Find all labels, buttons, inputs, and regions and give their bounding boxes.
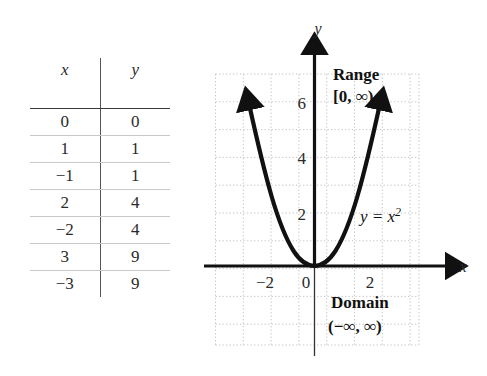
cell-y: 4: [100, 217, 170, 244]
header-rule-right: [100, 82, 170, 109]
table-row: −1 1: [30, 163, 170, 190]
axes: [204, 52, 448, 356]
axis-names: x y: [312, 20, 466, 275]
y-tick-label-4: 4: [298, 149, 307, 168]
cell-x: 0: [30, 109, 100, 136]
equation-label: y = x2: [358, 205, 401, 226]
table-header-rule: [30, 82, 170, 109]
x-axis-label: x: [458, 258, 466, 275]
domain-value: (−∞, ∞): [328, 317, 382, 336]
y-tick-label-6: 6: [298, 94, 307, 113]
figure-container: x y 0 0 1 1 −1 1: [0, 0, 487, 376]
range-value: [0, ∞): [333, 87, 373, 106]
cell-y: 4: [100, 190, 170, 217]
cell-y: 1: [100, 136, 170, 163]
cell-x: −1: [30, 163, 100, 190]
cell-y: 1: [100, 163, 170, 190]
cell-y: 9: [100, 244, 170, 271]
equation-main: y = x: [358, 207, 396, 226]
table-of-values: x y 0 0 1 1 −1 1: [30, 58, 170, 297]
graph-panel: −2 0 2 2 4 6 x y Range [0, ∞) Domain (−∞…: [200, 0, 487, 376]
range-title: Range: [333, 65, 380, 84]
table-row: 0 0: [30, 109, 170, 136]
table-row: −3 9: [30, 271, 170, 298]
table-row: 1 1: [30, 136, 170, 163]
x-tick-label-zero: 0: [302, 273, 311, 292]
table-row: 2 4: [30, 190, 170, 217]
y-axis-label: y: [312, 20, 322, 38]
equation-exponent: 2: [395, 205, 401, 219]
cell-x: 2: [30, 190, 100, 217]
table-header-row: x y: [30, 58, 170, 82]
domain-title: Domain: [331, 293, 389, 312]
header-rule-left: [30, 82, 100, 109]
cell-x: 3: [30, 244, 100, 271]
column-header-x: x: [30, 58, 100, 82]
column-header-y: y: [100, 58, 170, 82]
annotations: Range [0, ∞) Domain (−∞, ∞) y = x2: [328, 65, 401, 336]
table-row: 3 9: [30, 244, 170, 271]
cell-x: 1: [30, 136, 100, 163]
cell-y: 9: [100, 271, 170, 298]
table-row: −2 4: [30, 217, 170, 244]
y-tick-label-2: 2: [298, 205, 307, 224]
x-tick-label-neg2: −2: [256, 273, 274, 292]
cell-x: −2: [30, 217, 100, 244]
cell-x: −3: [30, 271, 100, 298]
value-table: x y 0 0 1 1 −1 1: [30, 58, 170, 297]
cell-y: 0: [100, 109, 170, 136]
x-tick-label-2: 2: [366, 273, 375, 292]
